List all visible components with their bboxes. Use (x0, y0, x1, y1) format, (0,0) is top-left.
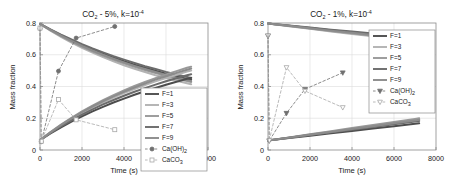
series-line-f-7 (40, 24, 191, 78)
chart-left-title: CO2 - 5%, k=10-4 (82, 9, 144, 20)
chart-left-x-axis-label: Time (s) (110, 166, 138, 175)
y-tick-label: 0.2 (254, 114, 264, 123)
chart-left-y-tick-labels: 00.20.40.60.8 (26, 19, 36, 155)
y-tick-label: 0.2 (26, 114, 36, 123)
legend-label-f9: F=9 (162, 134, 174, 141)
chart-right-x-tick-labels: 02000400060008000 (266, 154, 444, 163)
square-open-marker (74, 118, 78, 122)
chart-right-svg: CO2 - 1%, k=10-4 00.20.40.60.8 020004000… (228, 0, 455, 187)
y-tick-label: 0.8 (254, 19, 264, 28)
x-tick-label: 4000 (344, 154, 360, 163)
legend-label-f5: F=5 (162, 112, 174, 119)
chart-right-legend[interactable]: F=1F=3F=5F=7F=9Ca(OH)2CaCO3 (369, 30, 435, 113)
x-tick-label: 0 (38, 154, 42, 163)
y-tick-label: 0.4 (254, 82, 264, 91)
legend-label-f1: F=1 (162, 90, 174, 97)
y-tick-label: 0.4 (26, 82, 36, 91)
x-tick-label: 6000 (386, 154, 402, 163)
legend-label-f1: F=1 (390, 32, 402, 39)
x-tick-label: 2000 (74, 154, 90, 163)
legend-label-f5: F=5 (390, 54, 402, 61)
x-tick-label: 8000 (428, 154, 444, 163)
x-tick-label: 4000 (116, 154, 132, 163)
square-open-marker (56, 98, 60, 102)
circle-filled-marker (150, 147, 154, 151)
y-tick-label: 0.6 (26, 50, 36, 59)
figure-root: CO2 - 5%, k=10-4 00.20.40.60.8 020004000… (0, 0, 455, 187)
chart-left-svg: CO2 - 5%, k=10-4 00.20.40.60.8 020004000… (0, 0, 227, 187)
x-tick-label: 2000 (302, 154, 318, 163)
chart-right-title: CO2 - 1%, k=10-4 (310, 9, 372, 20)
triangle-down-open-marker (340, 106, 345, 110)
y-tick-label: 0.8 (26, 19, 36, 28)
legend-label-f3: F=3 (162, 101, 174, 108)
chart-panel-left: CO2 - 5%, k=10-4 00.20.40.60.8 020004000… (0, 0, 227, 187)
chart-right-y-axis-label: Mass fraction (236, 64, 245, 109)
circle-filled-marker (56, 69, 60, 73)
square-open-marker (113, 128, 117, 132)
y-tick-label: 0 (260, 146, 264, 155)
chart-right-y-tick-labels: 00.20.40.60.8 (254, 19, 264, 155)
legend-label-f7: F=7 (162, 123, 174, 130)
y-tick-label: 0.6 (254, 50, 264, 59)
series-line-f-1 (40, 24, 191, 80)
chart-left-y-axis-label: Mass fraction (8, 64, 17, 109)
circle-filled-marker (74, 36, 78, 40)
series-line-f-9-rising (268, 120, 419, 141)
y-tick-label: 0 (32, 146, 36, 155)
legend-label-f3: F=3 (390, 43, 402, 50)
chart-panel-right: CO2 - 1%, k=10-4 00.20.40.60.8 020004000… (228, 0, 455, 187)
chart-left-legend[interactable]: F=1F=3F=5F=7F=9Ca(OH)2CaCO3 (141, 88, 207, 171)
legend-label-f7: F=7 (390, 65, 402, 72)
chart-right-x-axis-label: Time (s) (338, 166, 366, 175)
circle-filled-marker (113, 24, 117, 28)
x-tick-label: 0 (266, 154, 270, 163)
legend-label-f9: F=9 (390, 76, 402, 83)
square-open-marker (150, 158, 154, 162)
